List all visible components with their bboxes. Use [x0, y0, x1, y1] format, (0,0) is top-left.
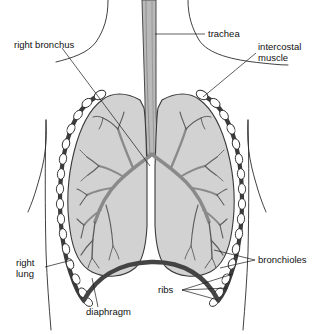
anatomy-illustration: right bronchus trachea intercostal muscl… [0, 0, 321, 334]
rib-oval [57, 168, 65, 179]
rib-oval [235, 153, 244, 165]
rib-oval [57, 213, 65, 224]
label-bronchioles: bronchioles [258, 254, 307, 265]
leader-bronchioles-2 [220, 260, 255, 268]
leader-intercostal-muscle [203, 53, 256, 97]
lung-left-shape [68, 94, 147, 276]
label-intercostal-muscle: intercostal muscle [258, 41, 304, 63]
rib-oval [237, 168, 245, 179]
label-ribs: ribs [158, 284, 174, 295]
rib-oval [235, 228, 244, 240]
label-right-bronchus: right bronchus [14, 39, 74, 50]
rib-oval [238, 199, 245, 210]
rib-oval [59, 153, 68, 165]
torso-outline-right [243, 120, 249, 330]
label-trachea: trachea [208, 28, 240, 39]
rib-oval [237, 213, 245, 224]
rib-oval [56, 183, 64, 194]
label-right-lung: right lung [16, 257, 37, 279]
rib-oval [238, 183, 246, 194]
neck-outline-left [56, 0, 108, 62]
rib-oval [59, 228, 68, 240]
arm-outline-right [248, 120, 266, 212]
torso-outline-left [45, 120, 51, 330]
label-diaphragm: diaphragm [86, 306, 131, 317]
rib-oval [56, 199, 63, 210]
respiratory-system-diagram: right bronchus trachea intercostal muscl… [0, 0, 321, 334]
arm-outline-left [28, 120, 46, 212]
